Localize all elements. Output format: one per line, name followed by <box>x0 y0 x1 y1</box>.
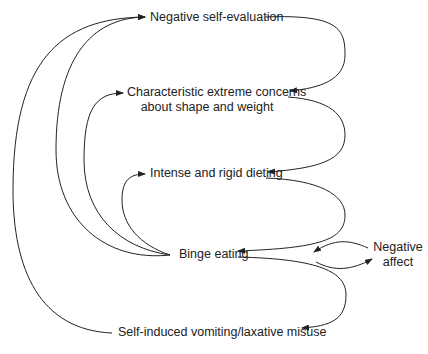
arrow-vomiting-to-selfeval <box>13 17 145 333</box>
node-binge-eating: Binge eating <box>179 247 249 262</box>
arrow-dieting-to-binge <box>238 178 345 251</box>
node-negative-affect-line2: affect <box>372 255 424 270</box>
node-extreme-concerns: Characteristic extreme concerns about sh… <box>127 85 287 115</box>
node-extreme-concerns-line1: Characteristic extreme concerns <box>127 85 287 100</box>
arrow-affect-to-binge <box>314 242 368 252</box>
arrow-binge-to-dieting <box>122 174 170 255</box>
node-negative-self-evaluation: Negative self-evaluation <box>150 10 283 25</box>
node-negative-affect: Negative affect <box>372 240 424 270</box>
node-negative-affect-line1: Negative <box>372 240 424 255</box>
arrow-binge-to-affect <box>316 259 372 268</box>
node-self-induced-vomiting: Self-induced vomiting/laxative misuse <box>118 325 326 340</box>
node-intense-rigid-dieting: Intense and rigid dieting <box>150 166 283 181</box>
arrow-selfeval-to-concerns <box>265 17 345 91</box>
node-extreme-concerns-line2: about shape and weight <box>127 100 287 115</box>
diagram-canvas: Negative self-evaluation Characteristic … <box>0 0 428 354</box>
arrow-binge-to-selfeval <box>56 17 170 256</box>
